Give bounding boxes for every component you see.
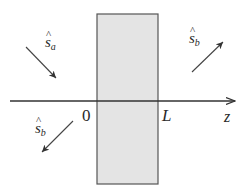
s-b-subscript: b: [195, 37, 200, 48]
origin-label: 0: [82, 106, 91, 125]
vector-s-a-label: sa ^: [45, 28, 56, 52]
s-a-hat: ^: [46, 28, 52, 40]
s-b-reflected-subscript: b: [41, 127, 46, 138]
vector-s-b-reflected-arrow: [42, 121, 73, 152]
thickness-label: L: [161, 106, 171, 125]
vector-s-b-reflected-label: sb ^: [35, 114, 46, 138]
slab: [97, 14, 158, 184]
z-axis-label: z: [223, 108, 231, 125]
slab-diagram: sa ^ sb ^ sb ^ 0 L z: [0, 0, 246, 194]
s-b-hat: ^: [190, 24, 196, 36]
s-a-subscript: a: [51, 41, 56, 52]
s-b-reflected-hat: ^: [36, 114, 42, 126]
vector-s-b-transmitted-label: sb ^: [189, 24, 200, 48]
